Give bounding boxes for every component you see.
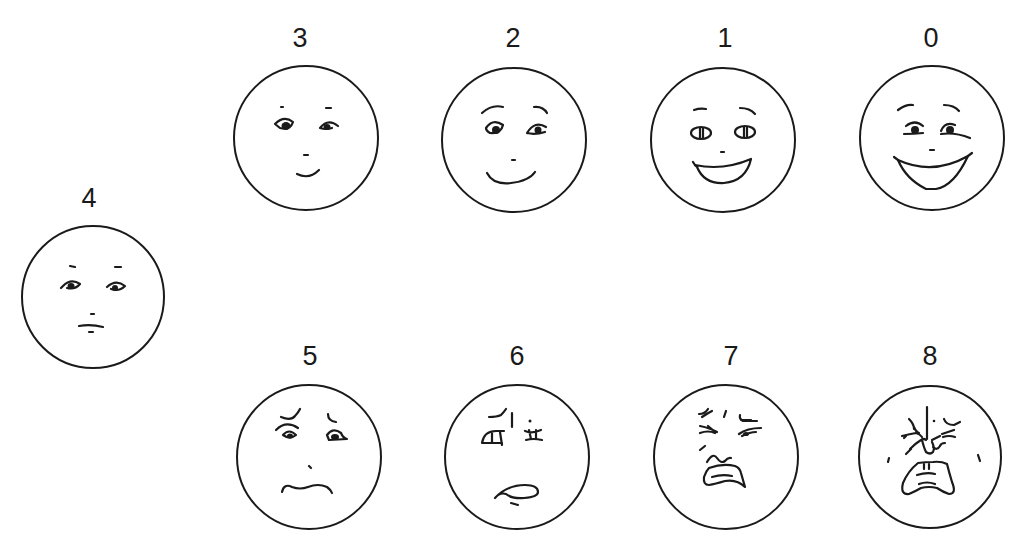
- face-5: 5: [237, 341, 381, 529]
- face-0-label: 0: [923, 23, 938, 53]
- face-1-outline-icon: [651, 68, 795, 212]
- face-6: 6: [445, 341, 589, 529]
- face-3-outline-icon: [234, 66, 378, 210]
- face-8-drawing: [859, 386, 1001, 528]
- face-8-tear-left-icon: [888, 458, 889, 462]
- face-4: 4: [22, 183, 164, 368]
- face-6-label: 6: [509, 341, 524, 371]
- face-2: 2: [442, 23, 586, 212]
- face-8-label: 8: [922, 341, 937, 371]
- face-1-label: 1: [717, 23, 732, 53]
- face-2-drawing: [442, 68, 586, 212]
- face-1-brow-left-icon: [694, 109, 706, 110]
- face-5-label: 5: [302, 341, 317, 371]
- face-7-drawing: [654, 385, 798, 529]
- face-2-label: 2: [505, 23, 520, 53]
- face-5-outline-icon: [237, 385, 381, 529]
- face-6-brow-right-icon: [529, 420, 532, 423]
- face-1: 1: [651, 23, 795, 212]
- face-5-nose-icon: [309, 466, 311, 468]
- face-4-drawing: [22, 226, 164, 368]
- face-8: 8: [859, 341, 1001, 528]
- face-0: 0: [860, 23, 1004, 210]
- face-7-label: 7: [723, 341, 738, 371]
- face-3-drawing: [234, 66, 378, 210]
- face-5-drawing: [237, 385, 381, 529]
- face-6-outline-icon: [445, 385, 589, 529]
- face-1-drawing: [651, 68, 795, 212]
- face-4-outline-icon: [22, 226, 164, 368]
- face-7: 7: [654, 341, 798, 529]
- face-4-label: 4: [81, 183, 96, 213]
- face-7-outline-icon: [654, 385, 798, 529]
- face-3: 3: [234, 23, 378, 210]
- face-4-brow-left-icon: [70, 266, 75, 267]
- face-6-drawing: [445, 385, 589, 529]
- face-0-drawing: [860, 66, 1004, 210]
- face-2-outline-icon: [442, 68, 586, 212]
- face-scale-diagram: 4 3 2: [0, 0, 1030, 556]
- face-3-label: 3: [292, 23, 307, 53]
